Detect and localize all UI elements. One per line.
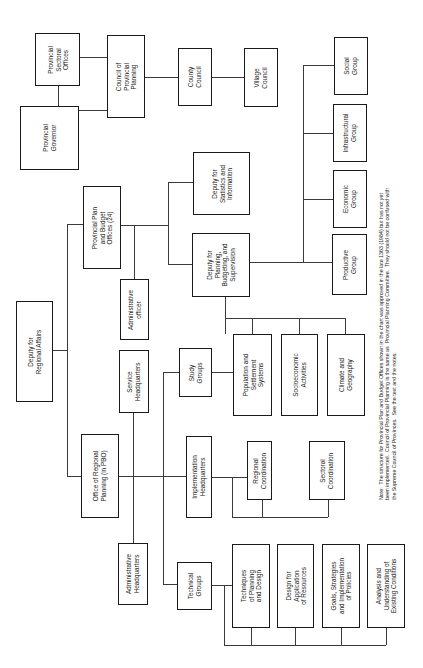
node-technical-groups: Technical Groups	[177, 562, 212, 610]
node-label: Deputy for Regional Affairs	[27, 329, 42, 374]
node-label: Provincial Plan and Budget Offices (24)	[91, 206, 114, 248]
org-chart: Provincial Sectoral Offices Provincial G…	[0, 0, 423, 668]
connector	[224, 585, 225, 645]
node-deputy-statistics: Deputy for Statistics and Information	[193, 152, 250, 215]
node-label: Administrative Headquarters	[125, 554, 140, 594]
node-provincial-sectoral-offices: Provincial Sectoral Offices	[35, 33, 80, 86]
connector	[145, 77, 178, 78]
connector	[163, 584, 177, 585]
node-label: Deputy for Planning, Budgeting, and Supe…	[206, 244, 236, 287]
connector	[168, 182, 169, 264]
connector	[386, 628, 387, 645]
connector	[163, 372, 164, 584]
node-council-provincial-planning: Council of Provincial Planning	[107, 35, 145, 118]
connector	[79, 110, 107, 111]
node-sectoral-coordination: Sectoral Coordination	[309, 441, 345, 500]
node-label: Provincial Governor	[42, 124, 57, 152]
connector	[67, 224, 68, 476]
connector	[133, 413, 134, 543]
connector	[67, 476, 81, 477]
node-design-application-resources: Design for Application of Resources	[277, 544, 314, 628]
node-label: Analysis and Understanding of Existing C…	[375, 559, 398, 613]
node-label: Infrastructural Group	[342, 113, 357, 152]
node-label: Economic Group	[342, 185, 357, 213]
node-label: Socioeconomic Activities	[292, 353, 307, 396]
connector	[121, 225, 168, 226]
node-label: Implementation Headquarters	[191, 455, 206, 499]
node-county-council: County Council	[178, 48, 212, 106]
connector	[262, 500, 263, 517]
node-label: Council of Provincial Planning	[115, 62, 138, 90]
node-social-group: Social Group	[334, 37, 368, 95]
node-label: Design for Application of Resources	[284, 567, 307, 605]
node-economic-group: Economic Group	[333, 170, 367, 228]
connector	[225, 318, 345, 319]
connector	[303, 262, 332, 263]
node-regional-coordination: Regional Coordination	[247, 441, 272, 500]
node-administrative-headquarters: Administrative Headquarters	[118, 543, 148, 605]
connector	[225, 297, 226, 334]
node-label: Social Group	[343, 57, 358, 75]
connector	[328, 500, 329, 517]
node-office-regional-planning: Office of Regional Planning (in PBO)	[81, 434, 119, 518]
connector	[58, 86, 59, 106]
node-label: Provincial Sectoral Offices	[46, 46, 69, 74]
connector	[163, 372, 179, 373]
connector	[295, 628, 296, 645]
connector	[341, 628, 342, 645]
node-village-council: Village Council	[244, 48, 278, 107]
node-label: Village Council	[253, 67, 268, 88]
connector	[232, 477, 233, 517]
chart-note: Note: The structure for Provincial Plan …	[378, 30, 397, 500]
connector	[224, 645, 386, 646]
connector	[252, 318, 253, 334]
node-provincial-governor: Provincial Governor	[20, 106, 79, 170]
node-label: Study Groups	[188, 362, 203, 383]
connector	[250, 262, 303, 263]
node-infrastructural-group: Infrastructural Group	[333, 104, 367, 162]
connector	[232, 517, 328, 518]
node-implementation-headquarters: Implementation Headquarters	[186, 436, 212, 518]
node-label: Service Headquarters	[126, 362, 141, 401]
node-label: Climate and Geography	[338, 358, 353, 392]
connector	[212, 77, 244, 78]
connector	[212, 477, 247, 478]
node-label: Office of Regional Planning (in PBO)	[92, 450, 107, 501]
node-deputy-planning: Deputy for Planning, Budgeting, and Supe…	[192, 233, 250, 297]
connector	[80, 57, 107, 58]
node-label: Techniques of Planning and Design	[240, 570, 263, 602]
node-study-groups: Study Groups	[179, 348, 212, 397]
connector	[251, 628, 252, 645]
connector	[345, 318, 346, 334]
node-label: Population and Settlement Systems	[241, 354, 264, 397]
node-techniques-planning-design: Techniques of Planning and Design	[232, 544, 270, 628]
connector	[303, 199, 333, 200]
node-goals-strategies: Goals, Strategies and Implementation of …	[322, 544, 360, 628]
connector	[168, 264, 192, 265]
node-productive-group: Productive Group	[332, 234, 367, 295]
node-label: Administrative officer	[127, 289, 142, 329]
connector	[119, 476, 186, 477]
connector	[303, 133, 333, 134]
node-label: Productive Group	[342, 249, 357, 279]
connector	[212, 372, 233, 373]
node-socioeconomic-activities: Socioeconomic Activities	[281, 334, 318, 416]
connector	[67, 224, 83, 225]
connector	[212, 585, 232, 586]
node-label: Deputy for Statistics and Information	[210, 164, 233, 202]
node-climate-geography: Climate and Geography	[327, 334, 365, 416]
connector	[53, 350, 67, 351]
connector	[134, 225, 135, 279]
connector	[168, 182, 193, 183]
node-label: Regional Coordination	[252, 452, 267, 488]
node-administrative-officer: Administrative officer	[120, 279, 149, 340]
connector	[299, 318, 300, 334]
node-analysis-existing-conditions: Analysis and Understanding of Existing C…	[367, 544, 405, 628]
connector	[303, 65, 304, 262]
node-service-headquarters: Service Headquarters	[119, 350, 149, 413]
node-label: Sectoral Coordination	[319, 452, 334, 488]
connector	[303, 65, 334, 66]
node-label: County Council	[187, 66, 202, 87]
node-label: Technical Groups	[187, 573, 202, 600]
node-label: Goals, Strategies and Implementation of …	[330, 558, 353, 614]
